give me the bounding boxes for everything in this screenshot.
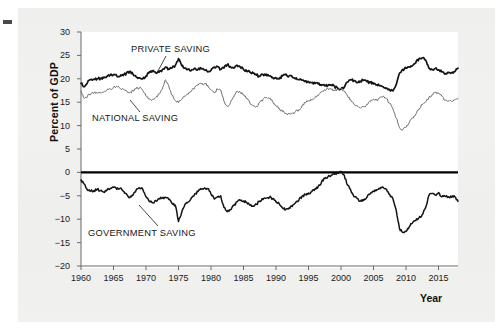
x-tick-1985: 1985 — [227, 273, 261, 283]
x-tick-2010: 2010 — [389, 273, 423, 283]
y-tick-neg20: −20 — [48, 261, 70, 271]
x-tick-1980: 1980 — [194, 273, 228, 283]
y-tick-neg15: −15 — [48, 238, 70, 248]
leader-line-government-saving — [139, 205, 158, 226]
x-tick-1970: 1970 — [129, 273, 163, 283]
x-tick-2015: 2015 — [422, 273, 456, 283]
series-label-private-saving: PRIVATE SAVING — [131, 44, 210, 54]
y-tick-0: 0 — [48, 167, 70, 177]
x-tick-1995: 1995 — [292, 273, 326, 283]
y-tick-15: 15 — [48, 97, 70, 107]
series-line-private-saving — [81, 58, 458, 91]
y-tick-neg10: −10 — [48, 214, 70, 224]
series-line-government-saving — [81, 171, 458, 232]
y-tick-10: 10 — [48, 121, 70, 131]
y-tick-25: 25 — [48, 50, 70, 60]
x-tick-2005: 2005 — [357, 273, 391, 283]
y-tick-5: 5 — [48, 144, 70, 154]
x-tick-2000: 2000 — [324, 273, 358, 283]
x-tick-1990: 1990 — [259, 273, 293, 283]
series-label-government-saving: GOVERNMENT SAVING — [88, 228, 196, 238]
leader-line-national-saving — [130, 100, 140, 112]
x-tick-1965: 1965 — [97, 273, 131, 283]
y-tick-20: 20 — [48, 74, 70, 84]
figure-screenshot: Percent of GDP Year 302520151050−5−10−15… — [0, 0, 503, 330]
y-tick-neg5: −5 — [48, 191, 70, 201]
x-tick-1975: 1975 — [162, 273, 196, 283]
x-axis-title: Year — [420, 292, 442, 304]
x-tick-1960: 1960 — [64, 273, 98, 283]
y-tick-30: 30 — [48, 27, 70, 37]
series-label-national-saving: NATIONAL SAVING — [92, 113, 178, 123]
